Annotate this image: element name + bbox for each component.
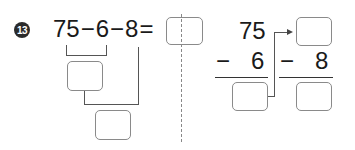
vertical-top-75: 75 — [239, 18, 266, 44]
vertical-underline-1 — [215, 77, 268, 78]
arrow-connector-vertical — [274, 32, 275, 97]
connector-from-8 — [138, 47, 139, 105]
connector-from-intermediate — [84, 91, 85, 105]
minus-sign: − — [81, 15, 95, 42]
bracket-bottom — [66, 55, 107, 56]
equals-sign: = — [139, 15, 153, 42]
answer-box-final[interactable] — [95, 110, 131, 140]
vertical-sub-8: 8 — [315, 48, 328, 74]
expression: 75−6−8= — [53, 15, 153, 43]
connector-join — [84, 104, 139, 105]
problem-number-badge: 13 — [14, 22, 30, 38]
operand-75: 75 — [53, 15, 80, 42]
vertical-sub-6: 6 — [251, 48, 264, 74]
dashed-divider — [181, 14, 182, 142]
answer-box-vertical-2[interactable] — [296, 82, 332, 111]
answer-box-vertical-1[interactable] — [232, 82, 268, 111]
answer-box-intermediate[interactable] — [67, 61, 103, 91]
vertical-minus-1: − — [216, 48, 230, 74]
answer-box-result[interactable] — [166, 17, 203, 45]
minus-sign: − — [110, 15, 124, 42]
vertical-underline-2 — [279, 77, 333, 78]
answer-box-vertical-top-2[interactable] — [296, 17, 332, 46]
operand-6: 6 — [96, 15, 109, 42]
arrow-head-icon — [287, 29, 293, 35]
operand-8: 8 — [125, 15, 138, 42]
vertical-minus-2: − — [280, 48, 294, 74]
